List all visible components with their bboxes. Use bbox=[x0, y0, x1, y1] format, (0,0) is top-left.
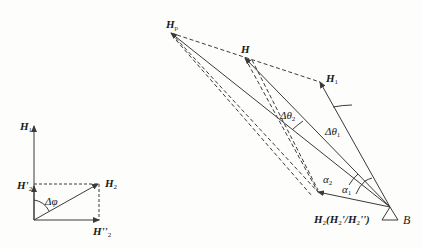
label-hp: Hp bbox=[166, 19, 178, 32]
label-b: B bbox=[403, 214, 410, 226]
label-h1-right: H1 bbox=[326, 73, 338, 86]
label-h: H bbox=[241, 44, 250, 55]
label-h2-right: H2(H2'/H2'') bbox=[314, 214, 370, 227]
diagram-lines bbox=[0, 0, 422, 248]
vector-diagram: H1 H'2 H2 H''2 Δφ Hp H H1 Δθ2 Δθ1 α2 α1 … bbox=[0, 0, 422, 248]
h1-vector bbox=[320, 82, 390, 207]
label-h2-doubleprime: H''2 bbox=[93, 226, 111, 239]
h2-vector-left bbox=[34, 184, 98, 220]
label-delta-theta1: Δθ1 bbox=[325, 126, 340, 139]
h2-vector bbox=[318, 192, 390, 207]
alpha1-arc-b bbox=[365, 178, 372, 181]
dashed-hp-h2 bbox=[171, 33, 318, 192]
h-vector bbox=[245, 58, 390, 207]
b-support-triangle bbox=[382, 207, 398, 220]
label-h2-left: H2 bbox=[105, 178, 117, 191]
label-delta-phi: Δφ bbox=[45, 196, 58, 207]
label-alpha1: α1 bbox=[342, 184, 351, 197]
dtheta1-arc bbox=[333, 105, 352, 107]
label-alpha2: α2 bbox=[323, 174, 332, 187]
label-delta-theta2: Δθ2 bbox=[280, 110, 295, 123]
label-h2-prime: H'2 bbox=[17, 180, 32, 193]
label-h1-left: H1 bbox=[20, 121, 32, 134]
dashed-h-h2-b bbox=[252, 60, 318, 190]
